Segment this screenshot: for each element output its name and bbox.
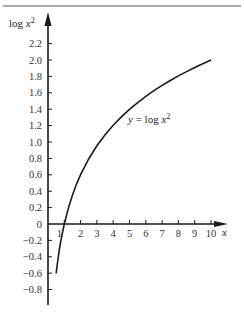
x-tick-label: 4: [111, 228, 117, 239]
x-tick-label: 9: [192, 228, 197, 239]
x-tick-label: 10: [206, 228, 217, 239]
curve-annotation: y = log x2: [127, 112, 170, 125]
y-tick-label: −0.4: [23, 251, 43, 262]
y-tick-label: 2.2: [29, 38, 42, 49]
y-tick-label: 0.4: [29, 186, 43, 197]
chart: 2.22.01.81.61.41.21.00.80.60.40.20−0.2−0…: [0, 0, 244, 324]
y-tick-label: 1.8: [29, 71, 42, 82]
y-axis-arrow-icon: [45, 12, 52, 26]
y-tick-label: 0.8: [29, 153, 42, 164]
y-axis: 2.22.01.81.61.41.21.00.80.60.40.20−0.2−0…: [23, 12, 52, 305]
y-tick-label: 0.6: [29, 169, 42, 180]
x-tick-label: 3: [94, 228, 99, 239]
y-axis-title: log x2: [9, 16, 35, 29]
x-tick-label: 7: [159, 228, 164, 239]
x-tick-label: 8: [176, 228, 181, 239]
y-tick-label: 1.4: [29, 104, 43, 115]
y-tick-label: 0.2: [29, 202, 42, 213]
y-tick-label: 1.6: [29, 87, 42, 98]
x-tick-label: 6: [143, 228, 148, 239]
x-axis-title: x: [221, 226, 227, 238]
y-tick-label: 0: [37, 219, 42, 230]
y-tick-label: 2.0: [29, 55, 42, 66]
y-tick-label: 1.2: [29, 120, 42, 131]
x-axis: 12345678910: [48, 220, 228, 239]
x-tick-label: 5: [127, 228, 132, 239]
y-tick-label: −0.8: [23, 284, 42, 295]
x-tick-label: 2: [78, 228, 83, 239]
y-tick-label: −0.2: [23, 235, 42, 246]
y-tick-label: −0.6: [23, 268, 42, 279]
y-tick-label: 1.0: [29, 137, 42, 148]
curve-log-x-squared: [56, 60, 211, 273]
